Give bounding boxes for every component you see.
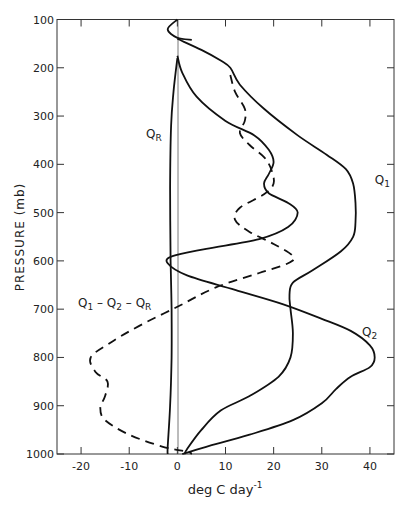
- chart-container: -20-10010203040 100200300400500600700800…: [0, 0, 409, 506]
- y-tick-label: 900: [33, 400, 54, 413]
- plot-frame: [57, 20, 394, 455]
- y-tick-label: 800: [33, 351, 54, 364]
- label-q1: Q1: [375, 173, 390, 189]
- y-tick-label: 1000: [26, 448, 54, 461]
- x-axis-label: deg C day-1: [188, 480, 263, 497]
- series-labels: QRQ1Q2Q1 – Q2 – QR: [78, 127, 390, 341]
- y-tick-label: 500: [33, 207, 54, 220]
- x-tick-label: 20: [267, 460, 281, 473]
- series-q1: [177, 39, 355, 454]
- label-q1-q2-qr: Q1 – Q2 – QR: [78, 296, 151, 312]
- y-tick-label: 600: [33, 255, 54, 268]
- x-tick-label: -20: [72, 460, 90, 473]
- x-tick-label: 40: [363, 460, 377, 473]
- y-tick-label: 200: [33, 62, 54, 75]
- label-q2: Q2: [362, 325, 377, 341]
- y-axis: 1002003004005006007008009001000: [26, 14, 394, 462]
- label-qr: QR: [146, 127, 162, 143]
- x-tick-label: 0: [174, 460, 181, 473]
- series-q1-q2-qr: [90, 75, 294, 454]
- y-tick-label: 400: [33, 158, 54, 171]
- x-tick-label: 30: [315, 460, 329, 473]
- x-tick-label: 10: [219, 460, 233, 473]
- x-tick-label: -10: [120, 460, 138, 473]
- series-group: [90, 20, 375, 455]
- y-tick-label: 300: [33, 110, 54, 123]
- vertical-profile-chart: -20-10010203040 100200300400500600700800…: [0, 0, 409, 506]
- series-top-loop: [168, 20, 192, 40]
- y-tick-label: 700: [33, 303, 54, 316]
- y-tick-label: 100: [33, 14, 54, 27]
- y-axis-label: PRESSURE (mb): [13, 183, 27, 292]
